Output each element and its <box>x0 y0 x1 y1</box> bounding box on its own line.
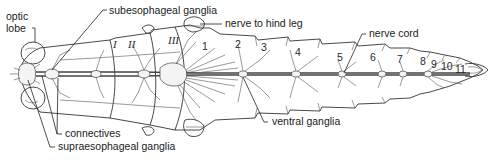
abd-segment-11: 11 <box>455 63 466 75</box>
abdominal-ganglion <box>378 71 386 77</box>
abd-segment-2: 2 <box>235 38 241 50</box>
abdominal-ganglion <box>239 71 248 77</box>
abd-segment-6: 6 <box>370 51 376 63</box>
label-nerve-cord: nerve cord <box>369 27 419 39</box>
abd-segment-4: 4 <box>295 46 301 58</box>
leader-connectives <box>42 76 62 134</box>
label-ventral-ganglia: ventral ganglia <box>272 115 340 127</box>
label-supraesophageal-ganglia: supraesophageal ganglia <box>58 140 176 152</box>
optic-lobe-bottom <box>21 87 45 109</box>
abdominal-ganglion <box>399 71 407 77</box>
abdominal-ganglion <box>292 71 301 77</box>
leader-optic-lobe <box>32 28 35 42</box>
leader-connectives-2 <box>57 78 58 134</box>
segment-II: II <box>127 38 137 50</box>
abd-segment-10: 10 <box>441 60 453 72</box>
abd-segment-8: 8 <box>420 55 426 67</box>
subesophageal-ganglion <box>45 69 59 79</box>
abd-segment-7: 7 <box>397 53 403 65</box>
segment-I: I <box>112 38 118 50</box>
insect-drawing: I II III 1 2 3 4 5 6 7 8 9 10 11 optic l… <box>0 0 493 160</box>
optic-lobe-top <box>21 42 45 64</box>
abd-segment-9: 9 <box>431 58 437 70</box>
thoracic-ganglion-1 <box>91 71 101 78</box>
label-connectives: connectives <box>65 127 120 139</box>
label-subesophageal-ganglia: subesophageal ganglia <box>109 4 217 16</box>
label-nerve-to-hind-leg: nerve to hind leg <box>225 17 303 29</box>
hind-leg-bottom <box>184 119 204 136</box>
leader-nerve-cord <box>344 34 366 73</box>
thoracic-ganglion-2 <box>138 70 150 78</box>
leader-subesophageal <box>52 10 107 70</box>
abdominal-ganglion <box>424 71 432 77</box>
abd-segment-1: 1 <box>202 40 208 52</box>
nervous-system-diagram: I II III 1 2 3 4 5 6 7 8 9 10 11 optic l… <box>0 0 493 160</box>
label-optic-lobe-line1: optic <box>6 10 28 22</box>
thoracic-ganglion-3 <box>160 63 187 86</box>
segment-III: III <box>167 34 180 46</box>
body-outline <box>20 25 488 130</box>
abd-segment-5: 5 <box>337 51 343 63</box>
label-optic-lobe-line2: lobe <box>6 22 26 34</box>
abd-segment-3: 3 <box>261 41 267 53</box>
supraesophageal-ganglia <box>19 63 36 85</box>
